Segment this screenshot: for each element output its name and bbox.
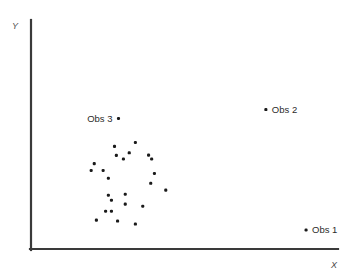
scatter-point — [110, 199, 113, 202]
scatter-point — [104, 210, 107, 213]
scatter-point — [90, 169, 93, 172]
observation-label: Obs 3 — [87, 113, 112, 124]
scatter-point — [102, 169, 105, 172]
scatter-point — [128, 151, 131, 154]
x-axis-label: X — [330, 260, 338, 270]
y-axis-label: Y — [12, 21, 19, 31]
scatter-point-group — [90, 141, 168, 226]
scatter-point — [107, 194, 110, 197]
annotated-point — [264, 108, 267, 111]
annotated-observations-group: Obs 1Obs 2Obs 3 — [87, 104, 337, 235]
scatter-point — [150, 157, 153, 160]
scatter-point — [134, 141, 137, 144]
scatter-point — [110, 210, 113, 213]
scatter-point — [153, 172, 156, 175]
scatter-point — [164, 189, 167, 192]
scatter-point — [141, 205, 144, 208]
scatter-point — [124, 193, 127, 196]
observation-label: Obs 1 — [312, 224, 337, 235]
scatter-point — [149, 182, 152, 185]
scatter-point — [124, 203, 127, 206]
scatter-point — [107, 177, 110, 180]
plot-canvas: Y X Obs 1Obs 2Obs 3 — [0, 0, 360, 275]
scatter-point — [115, 154, 118, 157]
scatter-point — [113, 145, 116, 148]
scatter-plot-figure: Y X Obs 1Obs 2Obs 3 — [0, 0, 360, 275]
annotated-point — [117, 117, 120, 120]
scatter-point — [134, 222, 137, 225]
scatter-point — [147, 154, 150, 157]
annotated-point — [305, 228, 308, 231]
scatter-point — [116, 220, 119, 223]
observation-label: Obs 2 — [272, 104, 297, 115]
scatter-point — [95, 219, 98, 222]
scatter-point — [93, 162, 96, 165]
scatter-point — [122, 157, 125, 160]
